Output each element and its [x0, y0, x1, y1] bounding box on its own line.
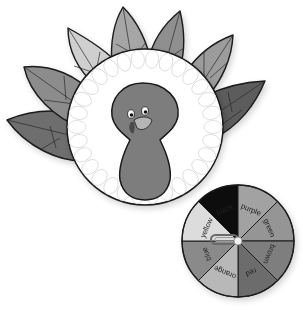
turkey-eye-left — [128, 110, 135, 118]
spinner-brad — [234, 237, 242, 245]
color-spinner[interactable]: blackpurplegreenbrownredorangeblueyellow — [182, 185, 294, 297]
turkey-eye-right — [142, 107, 149, 115]
turkey-illustration: blackpurplegreenbrownredorangeblueyellow — [0, 0, 303, 310]
